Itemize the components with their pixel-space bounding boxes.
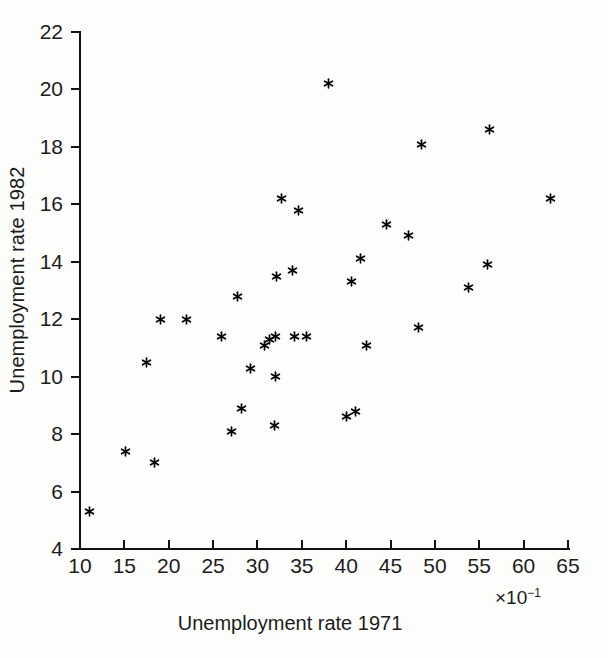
data-point-marker [84, 506, 95, 517]
x-axis-tick [256, 540, 258, 549]
x-axis-tick-label: 25 [190, 555, 236, 576]
data-point-marker [141, 357, 152, 368]
data-point-marker [120, 446, 131, 457]
x-axis-tick-label: 35 [279, 555, 325, 576]
data-point-marker [232, 291, 243, 302]
data-point-marker [181, 314, 192, 325]
y-axis-tick [71, 376, 80, 378]
x-axis-tick-label: 65 [545, 555, 591, 576]
y-axis-tick-label: 16 [15, 193, 63, 214]
data-point-marker [355, 253, 366, 264]
data-point-marker [245, 363, 256, 374]
y-axis-tick [71, 491, 80, 493]
data-point-marker [416, 139, 427, 150]
data-point-marker [149, 457, 160, 468]
x-axis-tick [567, 540, 569, 549]
y-axis-line [79, 31, 81, 550]
x-axis-tick [478, 540, 480, 549]
x-axis-exponent-base: ×10 [495, 587, 527, 608]
x-axis-tick-label: 30 [234, 555, 280, 576]
x-axis-exponent-annotation: ×10−1 [495, 586, 541, 609]
y-axis-tick [71, 261, 80, 263]
data-point-marker [293, 205, 304, 216]
y-axis-tick-label: 20 [15, 78, 63, 99]
data-point-marker [276, 193, 287, 204]
data-point-marker [289, 331, 300, 342]
y-axis-tick-label: 18 [15, 136, 63, 157]
y-axis-tick-label: 12 [15, 308, 63, 329]
data-point-marker [323, 78, 334, 89]
scatter-plot-figure: Unemployment rate 1982 46810121416182022… [0, 0, 608, 658]
y-axis-tick [71, 88, 80, 90]
data-point-marker [301, 331, 312, 342]
y-axis-tick-label: 22 [15, 21, 63, 42]
y-axis-tick [71, 318, 80, 320]
x-axis-tick [301, 540, 303, 549]
y-axis-tick-label: 10 [15, 366, 63, 387]
x-axis-tick-label: 15 [101, 555, 147, 576]
data-point-marker [287, 265, 298, 276]
data-point-marker [361, 340, 372, 351]
x-axis-tick [168, 540, 170, 549]
y-axis-tick-label: 4 [15, 538, 63, 559]
x-axis-tick [523, 540, 525, 549]
x-axis-tick [345, 540, 347, 549]
data-point-marker [463, 282, 474, 293]
y-axis-tick [71, 203, 80, 205]
x-axis-tick-label: 60 [501, 555, 547, 576]
data-point-marker [226, 426, 237, 437]
data-point-marker [482, 259, 493, 270]
x-axis-tick [79, 540, 81, 549]
y-axis-tick [71, 146, 80, 148]
x-axis-tick-label: 20 [146, 555, 192, 576]
data-point-marker [271, 271, 282, 282]
x-axis-tick-label: 50 [412, 555, 458, 576]
x-axis-tick [390, 540, 392, 549]
data-point-marker [270, 331, 281, 342]
x-axis-tick [212, 540, 214, 549]
y-axis-tick [71, 433, 80, 435]
x-axis-exponent-power: −1 [527, 586, 541, 600]
x-axis-tick-label: 40 [323, 555, 369, 576]
data-point-marker [236, 403, 247, 414]
x-axis-tick-label: 45 [368, 555, 414, 576]
data-point-marker [346, 276, 357, 287]
data-point-marker [484, 124, 495, 135]
x-axis-tick-label: 10 [57, 555, 103, 576]
data-point-marker [545, 193, 556, 204]
data-point-marker [350, 406, 361, 417]
data-point-marker [403, 230, 414, 241]
data-point-marker [155, 314, 166, 325]
x-axis-line [79, 548, 570, 550]
y-axis-tick [71, 31, 80, 33]
data-point-marker [381, 219, 392, 230]
y-axis-tick-label: 14 [15, 251, 63, 272]
y-axis-tick-label: 6 [15, 481, 63, 502]
data-point-marker [413, 322, 424, 333]
x-axis-tick-label: 55 [456, 555, 502, 576]
x-axis-tick [123, 540, 125, 549]
data-point-marker [216, 331, 227, 342]
y-axis-tick-label: 8 [15, 423, 63, 444]
data-point-marker [270, 371, 281, 382]
x-axis-tick [434, 540, 436, 549]
x-axis-label: Unemployment rate 1971 [80, 612, 500, 635]
data-point-marker [269, 420, 280, 431]
